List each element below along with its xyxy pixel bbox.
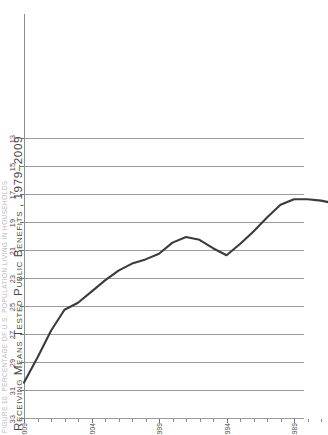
value-tick-label-29: 29 — [8, 359, 17, 367]
data-line-chart — [24, 14, 304, 419]
data-series-line — [24, 189, 328, 382]
year-minor-tick-1992 — [254, 419, 255, 422]
year-minor-tick-2005 — [78, 419, 79, 422]
year-tick-label-1994: 1994 — [223, 423, 230, 435]
value-tick-label-19: 19 — [8, 219, 17, 227]
year-tick-label-1989: 1989 — [291, 423, 298, 435]
year-tick-1989 — [294, 419, 295, 423]
year-minor-tick-1991 — [267, 419, 268, 422]
year-tick-label-1999: 1999 — [156, 423, 163, 435]
value-tick-label-17: 17 — [8, 191, 17, 199]
figure: FIGURE 10. PERCENTAGE OF U.S. POPULATION… — [0, 0, 328, 435]
year-tick-2009 — [24, 419, 25, 423]
year-minor-tick-2006 — [65, 419, 66, 422]
series-layer — [24, 14, 304, 419]
year-tick-1994 — [227, 419, 228, 423]
year-minor-tick-1993 — [240, 419, 241, 422]
year-tick-1999 — [159, 419, 160, 423]
rotated-figure-wrapper: FIGURE 10. PERCENTAGE OF U.S. POPULATION… — [0, 0, 328, 435]
year-minor-tick-1995 — [213, 419, 214, 422]
year-minor-tick-2001 — [132, 419, 133, 422]
year-minor-tick-2008 — [38, 419, 39, 422]
year-minor-tick-2000 — [146, 419, 147, 422]
value-tick-label-25: 25 — [8, 303, 17, 311]
year-minor-tick-1988 — [308, 419, 309, 422]
plot-area: 3331292725232119171513 20092004199919941… — [24, 14, 304, 419]
value-tick-label-33: 33 — [8, 415, 17, 423]
year-minor-tick-1998 — [173, 419, 174, 422]
caption-top-line: FIGURE 10. PERCENTAGE OF U.S. POPULATION… — [1, 1, 9, 433]
value-tick-label-21: 21 — [8, 247, 17, 255]
value-tick-label-27: 27 — [8, 331, 17, 339]
year-minor-tick-1987 — [321, 419, 322, 422]
year-minor-tick-2003 — [105, 419, 106, 422]
value-tick-label-13: 13 — [8, 135, 17, 143]
value-tick-label-15: 15 — [8, 163, 17, 171]
year-minor-tick-2002 — [119, 419, 120, 422]
year-minor-tick-1997 — [186, 419, 187, 422]
value-tick-label-31: 31 — [8, 387, 17, 395]
year-tick-label-2004: 2004 — [88, 423, 95, 435]
year-tick-2004 — [92, 419, 93, 423]
value-tick-label-23: 23 — [8, 275, 17, 283]
year-minor-tick-1990 — [281, 419, 282, 422]
year-tick-label-2009: 2009 — [21, 423, 28, 435]
year-minor-tick-2007 — [51, 419, 52, 422]
year-minor-tick-1996 — [200, 419, 201, 422]
